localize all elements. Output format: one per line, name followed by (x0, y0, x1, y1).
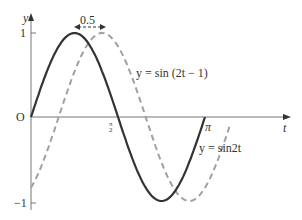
y-axis-arrow-icon (28, 13, 34, 21)
x-tick-pi: π (205, 121, 211, 133)
right-arrow-icon (100, 24, 106, 30)
y-tick-neg1: −1 (14, 197, 27, 209)
shift-label: 0.5 (80, 14, 95, 26)
t-axis-label: t (283, 122, 286, 134)
curve2-label: y = sin (2t − 1) (136, 67, 208, 79)
y-axis-label: y (23, 12, 28, 24)
t-axis-arrow-icon (283, 114, 291, 120)
curve1-label: y = sin2t (199, 142, 241, 154)
x-tick-half-pi: π2 (109, 121, 113, 133)
plot-canvas (0, 0, 302, 220)
y-tick-1: 1 (20, 27, 26, 39)
origin-label: O (16, 111, 25, 123)
